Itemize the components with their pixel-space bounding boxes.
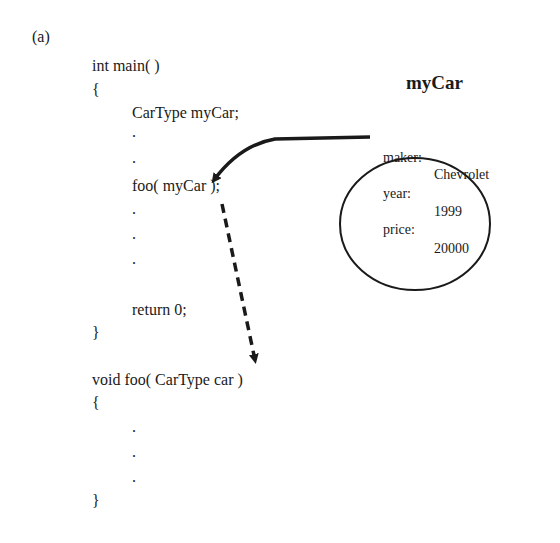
field-name-maker: maker: (383, 151, 422, 165)
copy-arrow (222, 204, 255, 360)
reference-arrow (214, 137, 370, 180)
field-name-price: price: (383, 223, 415, 237)
diagram-overlay (0, 0, 560, 543)
field-name-year: year: (383, 187, 411, 201)
field-value-year: 1999 (434, 205, 462, 219)
object-title: myCar (406, 73, 463, 92)
field-value-maker: Chevrolet (434, 168, 489, 182)
field-value-price: 20000 (434, 242, 469, 256)
